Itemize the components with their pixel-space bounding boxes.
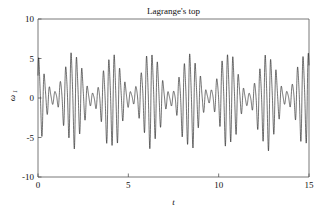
y-tick-label-1: -5 [27, 133, 35, 143]
y-tick-label-4: 10 [25, 14, 35, 24]
y-tick-label-2: 0 [30, 93, 35, 103]
chart-title: Lagrange's top [147, 6, 200, 16]
x-tick-label-2: 10 [214, 180, 224, 190]
chart-figure: 051015 -10-50510 Lagrange's top t ω 1 [0, 0, 326, 212]
chart-background [0, 0, 326, 212]
y-tick-label-3: 5 [30, 54, 35, 64]
x-tick-label-3: 15 [305, 180, 315, 190]
x-tick-label-0: 0 [36, 180, 41, 190]
y-axis-label-symbol: ω [7, 95, 17, 101]
y-axis-label-subscript: 1 [11, 90, 18, 93]
lagranges-top-line-chart: 051015 -10-50510 Lagrange's top t ω 1 [0, 0, 326, 212]
y-tick-label-0: -10 [22, 172, 34, 182]
x-tick-label-1: 5 [126, 180, 131, 190]
